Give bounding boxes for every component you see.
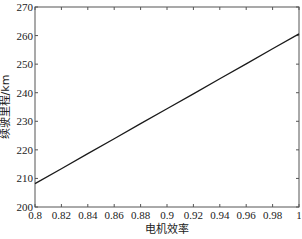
line-chart: 0.80.820.840.860.880.90.920.940.960.9812… <box>0 0 301 239</box>
y-tick-label: 210 <box>17 172 34 184</box>
plot-area: 0.80.820.840.860.880.90.920.940.960.9812… <box>17 1 302 221</box>
x-tick-label: 0.86 <box>105 209 125 221</box>
x-tick-label: 0.84 <box>78 209 98 221</box>
y-tick-label: 260 <box>17 30 34 42</box>
x-tick-label: 0.82 <box>52 209 71 221</box>
x-tick-label: 0.94 <box>210 209 230 221</box>
x-tick-label: 0.92 <box>184 209 203 221</box>
y-tick-label: 200 <box>17 201 34 213</box>
y-axis-title: 续驶里程/km <box>0 75 12 140</box>
x-tick-label: 0.88 <box>131 209 151 221</box>
y-tick-label: 250 <box>17 58 34 70</box>
y-tick-label: 220 <box>17 144 34 156</box>
x-tick-label: 1 <box>296 209 301 221</box>
x-tick-label: 0.9 <box>160 209 174 221</box>
y-tick-label: 240 <box>17 87 34 99</box>
x-tick-label: 0.98 <box>263 209 283 221</box>
data-line <box>35 34 299 184</box>
x-axis-title: 电机效率 <box>145 222 189 236</box>
plot-frame <box>35 7 299 207</box>
y-tick-label: 270 <box>17 1 34 13</box>
x-tick-label: 0.96 <box>237 209 257 221</box>
y-tick-label: 230 <box>17 115 34 127</box>
